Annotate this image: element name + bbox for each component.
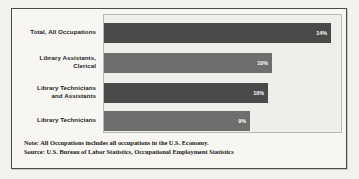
bar-total-all-occupations: 14% bbox=[104, 23, 331, 43]
category-label-2-line1: Library Technicians bbox=[37, 84, 96, 91]
category-label-3-line1: Library Technicians bbox=[37, 116, 96, 123]
bar-library-technicians-and-assistants: 10% bbox=[104, 83, 268, 103]
plot-area: 14% 10% 10% 9% bbox=[103, 14, 342, 133]
bar-value-label-1: 10% bbox=[257, 60, 268, 66]
chart-figure: Total, All Occupations Library Assistant… bbox=[0, 0, 359, 179]
category-label-2-line2: and Assistants bbox=[52, 92, 96, 99]
bar-library-assistants-clerical: 10% bbox=[104, 53, 272, 73]
category-label-1-line2: Clerical bbox=[73, 62, 96, 69]
footnote-note: Note: All Occupations includes all occup… bbox=[24, 139, 340, 148]
category-label-0-line1: Total, All Occupations bbox=[30, 28, 96, 35]
chart-outer-frame: Total, All Occupations Library Assistant… bbox=[11, 8, 347, 169]
bar-value-label-2: 10% bbox=[253, 90, 264, 96]
footnote-block: Note: All Occupations includes all occup… bbox=[24, 139, 340, 156]
category-label-1: Library Assistants, Clerical bbox=[12, 54, 96, 69]
category-label-0: Total, All Occupations bbox=[12, 28, 96, 36]
category-label-3: Library Technicians bbox=[12, 116, 96, 124]
bar-value-label-3: 9% bbox=[238, 118, 246, 124]
category-label-2: Library Technicians and Assistants bbox=[12, 84, 96, 99]
bar-value-label-0: 14% bbox=[316, 30, 327, 36]
category-label-1-line1: Library Assistants, bbox=[40, 54, 96, 61]
category-label-column: Total, All Occupations Library Assistant… bbox=[12, 14, 100, 133]
footnote-source: Source: U.S. Bureau of Labor Statistics,… bbox=[24, 148, 340, 157]
bar-library-technicians: 9% bbox=[104, 111, 250, 131]
